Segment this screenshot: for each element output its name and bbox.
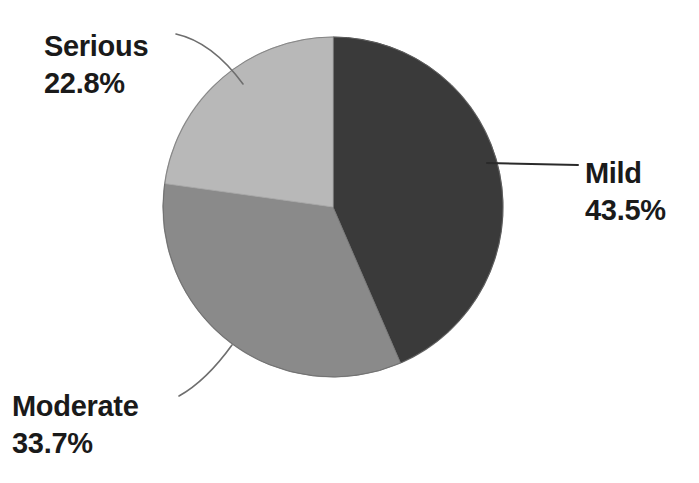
pie-label-moderate-name: Moderate — [12, 388, 139, 425]
pie-label-serious-value: 22.8% — [44, 65, 148, 102]
pie-label-serious-name: Serious — [44, 28, 148, 65]
pie-label-serious: Serious 22.8% — [44, 28, 148, 102]
pie-label-moderate-value: 33.7% — [12, 425, 139, 462]
pie-slice-serious[interactable] — [165, 37, 333, 207]
pie-chart-figure: Serious 22.8% Mild 43.5% Moderate 33.7% — [0, 0, 699, 483]
pie-label-mild-name: Mild — [585, 155, 666, 192]
leader-line-moderate — [179, 345, 232, 396]
pie-label-mild: Mild 43.5% — [585, 155, 666, 229]
leader-line-mild — [487, 163, 578, 165]
pie-label-moderate: Moderate 33.7% — [12, 388, 139, 462]
pie-label-mild-value: 43.5% — [585, 192, 666, 229]
